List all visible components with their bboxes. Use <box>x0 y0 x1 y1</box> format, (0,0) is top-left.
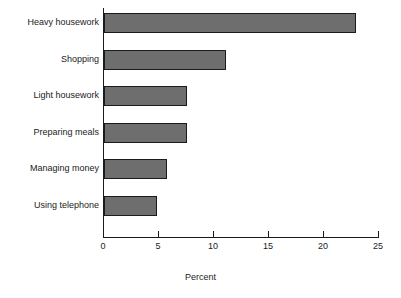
tick-label: 0 <box>88 241 118 252</box>
plot-area: Heavy houseworkShoppingLight houseworkPr… <box>103 8 378 237</box>
tick-mark <box>323 231 324 237</box>
bar <box>104 86 187 106</box>
value-axis-line <box>103 237 379 238</box>
category-label: Shopping <box>3 54 99 65</box>
tick-mark <box>213 231 214 237</box>
category-label: Heavy housework <box>3 17 99 28</box>
bar <box>104 50 226 70</box>
category-label: Light housework <box>3 90 99 101</box>
bar <box>104 13 356 33</box>
tick-mark <box>158 231 159 237</box>
chart-figure: Heavy houseworkShoppingLight houseworkPr… <box>0 0 401 298</box>
tick-label: 10 <box>198 241 228 252</box>
bar <box>104 123 187 143</box>
tick-mark <box>268 231 269 237</box>
tick-label: 20 <box>308 241 338 252</box>
category-label: Managing money <box>3 163 99 174</box>
tick-label: 15 <box>253 241 283 252</box>
x-axis-title: Percent <box>0 272 401 282</box>
tick-label: 5 <box>143 241 173 252</box>
category-label: Preparing meals <box>3 127 99 138</box>
bar <box>104 196 157 216</box>
category-label: Using telephone <box>3 200 99 211</box>
tick-mark <box>378 231 379 237</box>
tick-label: 25 <box>363 241 393 252</box>
bar <box>104 159 167 179</box>
